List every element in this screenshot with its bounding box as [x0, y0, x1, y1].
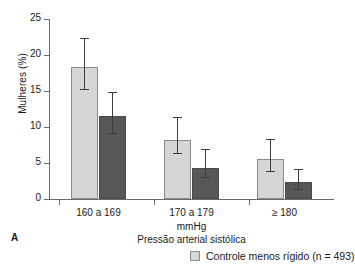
- error-bar: [285, 19, 312, 199]
- panel-label: A: [11, 232, 18, 243]
- y-tick-label: 25: [19, 12, 41, 23]
- x-tick: [59, 200, 60, 205]
- error-bar: [71, 19, 98, 199]
- y-tick: 25: [44, 19, 49, 20]
- y-tick-label: 10: [19, 120, 41, 131]
- x-tick-label: 170 a 179: [147, 207, 237, 218]
- error-bar-stem: [112, 93, 113, 134]
- error-bar: [164, 19, 191, 199]
- x-tick: [154, 200, 155, 205]
- error-bar-stem: [298, 170, 299, 189]
- x-axis-unit-label: mmHg: [49, 221, 334, 232]
- error-bar-cap-upper: [201, 149, 210, 150]
- error-bar-cap-upper: [294, 169, 303, 170]
- y-tick-label: 5: [19, 156, 41, 167]
- x-tick: [249, 200, 250, 205]
- error-bar-cap-upper: [173, 117, 182, 118]
- error-bar-cap-lower: [201, 177, 210, 178]
- error-bar: [192, 19, 219, 199]
- y-tick-label: 20: [19, 48, 41, 59]
- error-bar-cap-lower: [173, 153, 182, 154]
- chart-legend: Controle menos rígido (n = 493): [190, 250, 355, 262]
- plot-area: 0510152025 160 a 169170 a 179≥ 180: [49, 19, 334, 199]
- legend-swatch-light: [190, 251, 200, 261]
- legend-label: Controle menos rígido (n = 493): [206, 250, 355, 262]
- error-bar-cap-lower: [80, 89, 89, 90]
- x-axis-title: Pressão arterial sistólica: [49, 234, 334, 245]
- error-bar-stem: [84, 39, 85, 89]
- error-bar-cap-lower: [108, 133, 117, 134]
- error-bar-cap-lower: [266, 171, 275, 172]
- error-bar-cap-lower: [294, 189, 303, 190]
- x-tick-label: 160 a 169: [54, 207, 144, 218]
- y-tick: 10: [44, 127, 49, 128]
- y-tick: 0: [44, 199, 49, 200]
- error-bar-cap-upper: [108, 92, 117, 93]
- y-tick: 5: [44, 163, 49, 164]
- y-tick-label: 15: [19, 84, 41, 95]
- y-tick: 15: [44, 91, 49, 92]
- bar-group: [257, 19, 312, 199]
- error-bar: [99, 19, 126, 199]
- bar-group: [164, 19, 219, 199]
- error-bar: [257, 19, 284, 199]
- y-tick: 20: [44, 55, 49, 56]
- y-axis-line: [49, 19, 50, 200]
- error-bar-cap-upper: [266, 139, 275, 140]
- error-bar-stem: [270, 140, 271, 172]
- x-tick-label: ≥ 180: [240, 207, 330, 218]
- x-axis-line: [49, 199, 334, 200]
- error-bar-cap-upper: [80, 38, 89, 39]
- y-tick-label: 0: [19, 192, 41, 203]
- bar-group: [71, 19, 126, 199]
- error-bar-stem: [205, 150, 206, 178]
- error-bar-stem: [177, 118, 178, 155]
